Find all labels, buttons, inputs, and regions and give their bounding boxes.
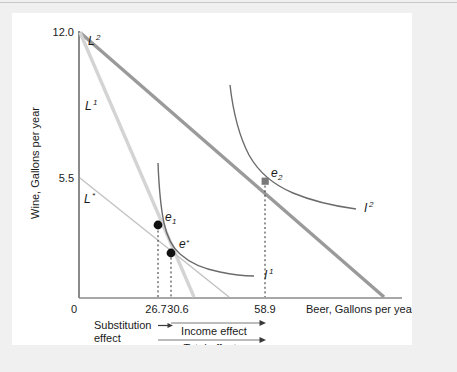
axis-group: [79, 31, 402, 298]
indifference-curve-chart: 12.0 5.5 0 26.7 30.6 58.9 Wine, Gallons …: [12, 13, 412, 345]
budget-line-L2: [80, 33, 384, 298]
curve-label-Lstar: L *: [84, 191, 96, 206]
curve-label-I2-base: I: [364, 201, 368, 215]
y-tick-label-5-5: 5.5: [59, 172, 74, 184]
curve-label-L1: L 1: [85, 98, 97, 113]
effect-annotations-group: Substitution effect Income effect T: [94, 319, 266, 345]
x-tick-label-26-7: 26.7: [145, 303, 166, 315]
curve-label-L2-base: L: [88, 34, 95, 48]
point-label-e-star-base: e: [179, 237, 186, 251]
curve-label-I2: I 2: [364, 200, 374, 215]
figure-root: 12.0 5.5 0 26.7 30.6 58.9 Wine, Gallons …: [0, 0, 457, 372]
total-effect-label: Total effect: [184, 342, 237, 345]
top-divider-rule: [0, 2, 457, 3]
point-label-e2-sub: 2: [277, 173, 283, 182]
x-axis-title: Beer, Gallons per year: [306, 303, 412, 315]
droplines-group: [158, 181, 265, 297]
budget-line-Lstar: [80, 178, 229, 297]
x-tick-label-58-9: 58.9: [254, 303, 275, 315]
curve-label-I2-sup: 2: [368, 200, 374, 209]
point-label-e2: e 2: [271, 166, 283, 182]
income-effect-label: Income effect: [181, 325, 247, 337]
chart-panel: 12.0 5.5 0 26.7 30.6 58.9 Wine, Gallons …: [12, 13, 412, 345]
indifference-curve-I2: [230, 85, 356, 209]
point-label-e2-base: e: [271, 166, 278, 180]
curve-label-I1: I 1: [264, 267, 273, 282]
substitution-effect-arrow: [158, 323, 173, 328]
curve-label-L2: L 2: [88, 33, 101, 48]
curve-label-I1-sup: 1: [269, 267, 273, 276]
curve-label-Lstar-sup: *: [92, 191, 96, 200]
point-label-e1-base: e: [165, 210, 172, 224]
curve-label-L1-base: L: [85, 99, 92, 113]
point-marker-e2: [262, 178, 269, 185]
budget-line-L1: [80, 33, 194, 298]
y-axis-title: Wine, Gallons per year: [29, 107, 41, 219]
curve-label-L2-sup: 2: [95, 33, 101, 42]
curve-label-L1-sup: 1: [93, 98, 97, 107]
point-label-e-star-sub: *: [186, 238, 190, 247]
curve-label-Lstar-base: L: [84, 192, 91, 206]
point-label-e-star: e *: [179, 237, 190, 251]
point-marker-e-star: [167, 249, 176, 258]
curve-label-I1-base: I: [264, 268, 268, 282]
point-marker-e1: [154, 221, 163, 230]
substitution-effect-label-line2: effect: [94, 332, 121, 344]
point-label-e1-sub: 1: [172, 217, 176, 226]
x-tick-label-30-6: 30.6: [167, 303, 188, 315]
origin-label: 0: [71, 303, 77, 315]
point-label-e1: e 1: [165, 210, 176, 226]
substitution-effect-label-line1: Substitution: [94, 319, 151, 331]
y-tick-label-12: 12.0: [53, 26, 74, 38]
